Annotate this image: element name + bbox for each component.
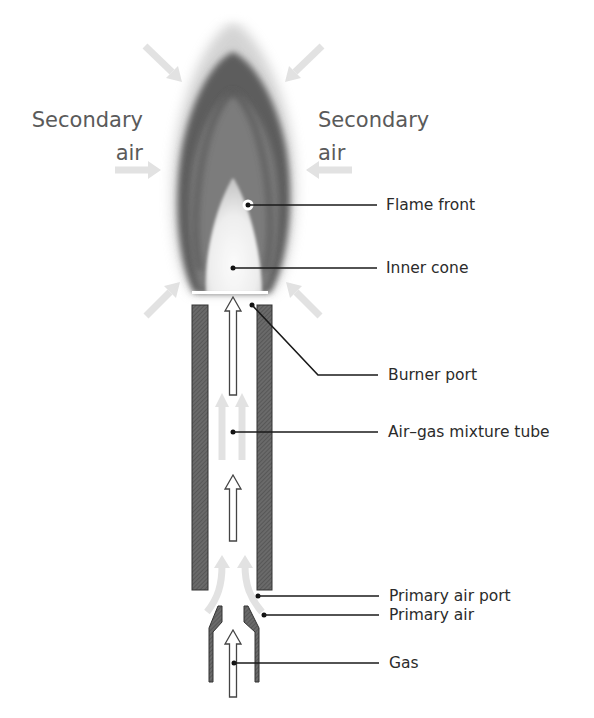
arrow-up-icon bbox=[225, 297, 241, 395]
svg-text:Inner cone: Inner cone bbox=[386, 259, 468, 277]
primary-air-arrows bbox=[207, 555, 262, 612]
callout-mixture-tube: Air–gas mixture tube bbox=[231, 423, 550, 441]
svg-text:Burner port: Burner port bbox=[388, 366, 477, 384]
svg-text:Secondary: Secondary bbox=[318, 108, 429, 132]
svg-text:Primary air port: Primary air port bbox=[389, 587, 511, 605]
nozzle-right-wall bbox=[244, 606, 259, 682]
svg-text:Air–gas mixture tube: Air–gas mixture tube bbox=[388, 423, 550, 441]
tube-right-wall bbox=[257, 305, 272, 590]
svg-text:Secondary: Secondary bbox=[32, 108, 143, 132]
nozzle-left-wall bbox=[209, 606, 222, 682]
secondary-air-left-label: Secondary air bbox=[32, 108, 144, 165]
callout-gas: Gas bbox=[232, 654, 419, 672]
svg-text:Primary air: Primary air bbox=[389, 606, 475, 624]
bunsen-burner-diagram: Secondary air Secondary air Flame front … bbox=[0, 0, 594, 718]
arrow-up-icon bbox=[225, 475, 241, 541]
arrow-icon bbox=[146, 282, 180, 316]
svg-text:air: air bbox=[116, 141, 144, 165]
tube-left-wall bbox=[192, 305, 208, 590]
callout-primary-air: Primary air bbox=[262, 606, 475, 624]
mixture-flow-arrows bbox=[215, 393, 249, 460]
hollow-flow-arrows bbox=[225, 297, 241, 697]
callout-burner-port: Burner port bbox=[250, 303, 478, 385]
arrow-icon bbox=[286, 282, 320, 316]
callout-primary-air-port: Primary air port bbox=[256, 587, 511, 605]
svg-text:air: air bbox=[318, 141, 346, 165]
svg-text:Gas: Gas bbox=[389, 654, 419, 672]
flame bbox=[160, 10, 310, 294]
svg-text:Flame front: Flame front bbox=[386, 196, 475, 214]
secondary-air-right-label: Secondary air bbox=[318, 108, 429, 165]
